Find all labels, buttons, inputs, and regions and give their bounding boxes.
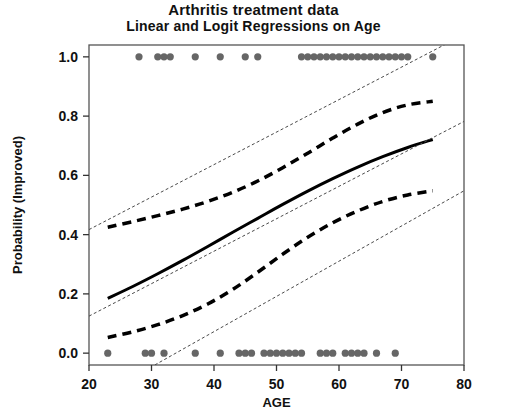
data-point (254, 53, 261, 60)
data-point (323, 350, 330, 357)
data-point (385, 53, 392, 60)
data-point (217, 350, 224, 357)
data-point (348, 53, 355, 60)
data-point (160, 53, 167, 60)
regression-line (108, 101, 433, 227)
data-point (329, 350, 336, 357)
data-point (392, 53, 399, 60)
data-point (373, 350, 380, 357)
data-point (135, 53, 142, 60)
data-point (104, 350, 111, 357)
data-point (142, 350, 149, 357)
data-points (104, 53, 436, 357)
data-point (248, 350, 255, 357)
y-axis-title: Probability (Improved) (10, 136, 25, 274)
plot-frame (89, 45, 464, 365)
data-point (260, 350, 267, 357)
x-tick-label: 80 (456, 376, 472, 392)
data-point (354, 350, 361, 357)
data-point (167, 53, 174, 60)
x-tick-label: 70 (394, 376, 410, 392)
data-point (279, 350, 286, 357)
data-point (354, 53, 361, 60)
regression-line (89, 35, 464, 230)
axis-ticks (83, 57, 464, 371)
data-point (304, 53, 311, 60)
data-point (273, 350, 280, 357)
data-point (298, 53, 305, 60)
y-tick-label: 1.0 (59, 49, 79, 65)
data-point (367, 53, 374, 60)
data-point (323, 53, 330, 60)
data-point (342, 53, 349, 60)
data-point (267, 350, 274, 357)
data-point (429, 53, 436, 60)
data-point (242, 53, 249, 60)
chart-figure: Arthritis treatment data Linear and Logi… (0, 0, 507, 417)
x-tick-label: 30 (144, 376, 160, 392)
y-tick-label: 0.8 (59, 108, 79, 124)
data-point (154, 53, 161, 60)
data-point (285, 350, 292, 357)
data-point (317, 53, 324, 60)
data-point (242, 350, 249, 357)
data-point (192, 350, 199, 357)
plot-area: 203040506070800.00.20.40.60.81.0AGEProba… (0, 0, 507, 417)
data-point (298, 350, 305, 357)
data-point (292, 350, 299, 357)
y-tick-label: 0.6 (59, 167, 79, 183)
data-point (392, 350, 399, 357)
data-point (317, 350, 324, 357)
data-point (335, 53, 342, 60)
x-tick-label: 50 (269, 376, 285, 392)
x-axis-title: AGE (262, 395, 291, 410)
data-point (398, 53, 405, 60)
y-tick-label: 0.0 (59, 345, 79, 361)
x-tick-label: 20 (81, 376, 97, 392)
data-point (329, 53, 336, 60)
data-point (160, 350, 167, 357)
data-point (192, 53, 199, 60)
y-tick-label: 0.2 (59, 286, 79, 302)
data-point (379, 53, 386, 60)
data-point (217, 53, 224, 60)
x-tick-label: 40 (206, 376, 222, 392)
regression-lines (89, 35, 464, 402)
data-point (360, 53, 367, 60)
data-point (404, 53, 411, 60)
data-point (342, 350, 349, 357)
data-point (148, 350, 155, 357)
data-point (348, 350, 355, 357)
data-point (373, 53, 380, 60)
data-point (235, 350, 242, 357)
y-tick-label: 0.4 (59, 227, 79, 243)
data-point (310, 53, 317, 60)
data-point (360, 350, 367, 357)
x-tick-label: 60 (331, 376, 347, 392)
